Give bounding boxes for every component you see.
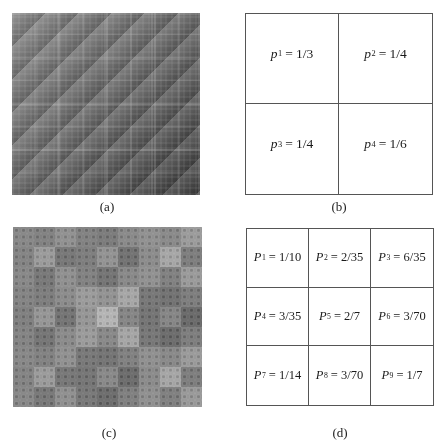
cascade-subcell	[34, 327, 55, 347]
cascade-subcell	[76, 267, 97, 287]
cascade-subcell	[181, 367, 202, 387]
subscript: 5	[327, 312, 331, 321]
subscript: 4	[372, 140, 376, 149]
cascade-subcell	[76, 367, 97, 387]
cascade-subcell	[76, 287, 97, 307]
caption-a: (a)	[92, 199, 122, 215]
caption-d: (d)	[325, 425, 355, 441]
subscript: 3	[386, 253, 390, 262]
equals: =	[379, 46, 387, 62]
quadrant	[12, 104, 106, 195]
grid-cell: P7=1/14	[247, 346, 309, 405]
cascade-subcell	[118, 387, 139, 407]
p-symbol: p	[271, 46, 278, 62]
quadrant	[106, 13, 200, 104]
cascade-image-3x3	[13, 227, 202, 407]
cascade-subcell	[97, 367, 118, 387]
subscript: 7	[262, 371, 266, 380]
cascade-subcell	[76, 307, 97, 327]
cascade-subcell	[181, 347, 202, 367]
probability-value: 1/14	[279, 368, 301, 383]
equals: =	[269, 250, 276, 265]
cascade-subcell	[118, 227, 139, 247]
cascade-subcell	[139, 347, 160, 367]
cascade-subcell	[34, 287, 55, 307]
cascade-subcell	[160, 227, 181, 247]
cascade-subcell	[13, 247, 34, 267]
cascade-subcell	[118, 247, 139, 267]
cascade-subcell	[55, 327, 76, 347]
probability-grid-2x2: p1=1/3 p2=1/4 p3=1/4 p4=1/6	[245, 13, 433, 195]
cascade-subcell	[13, 347, 34, 367]
equals: =	[331, 250, 338, 265]
cascade-subcell	[13, 287, 34, 307]
equals: =	[334, 309, 341, 324]
equals: =	[285, 136, 293, 152]
p-symbol: P	[254, 368, 262, 383]
probability-grid-3x3: P1=1/10 P2=2/35 P3=6/35 P4=3/35 P5=2/7 P…	[246, 228, 434, 406]
cascade-subcell	[160, 347, 181, 367]
equals: =	[393, 309, 400, 324]
quadrant	[106, 104, 200, 195]
cascade-subcell	[34, 307, 55, 327]
grid-cell: p1=1/3	[246, 14, 339, 104]
probability-value: 1/10	[279, 250, 301, 265]
cascade-subcell	[160, 387, 181, 407]
quadrant	[12, 13, 106, 104]
cascade-subcell	[55, 367, 76, 387]
grid-cell: P5=2/7	[309, 288, 371, 347]
cascade-subcell	[55, 287, 76, 307]
cascade-subcell	[97, 327, 118, 347]
cascade-subcell	[76, 227, 97, 247]
equals: =	[331, 368, 338, 383]
cascade-subcell	[13, 267, 34, 287]
cascade-image-2x2	[12, 13, 200, 195]
grid-cell: P1=1/10	[247, 229, 309, 288]
p-symbol: P	[254, 250, 262, 265]
subscript: 2	[372, 49, 376, 58]
p-symbol: P	[381, 368, 389, 383]
probability-value: 3/70	[403, 309, 425, 324]
cascade-subcell	[118, 287, 139, 307]
cascade-subcell	[13, 367, 34, 387]
cascade-subcell	[139, 267, 160, 287]
cascade-subcell	[76, 387, 97, 407]
cascade-subcell	[13, 307, 34, 327]
grid-cell: P4=3/35	[247, 288, 309, 347]
cascade-subcell	[13, 327, 34, 347]
cascade-subcell	[97, 387, 118, 407]
cascade-subcell	[160, 247, 181, 267]
cascade-subcell	[118, 307, 139, 327]
subscript: 9	[390, 371, 394, 380]
cascade-subcell	[160, 267, 181, 287]
grid-cell: p2=1/4	[339, 14, 432, 104]
cascade-subcell	[55, 347, 76, 367]
cascade-subcell	[181, 387, 202, 407]
cascade-subcell	[160, 287, 181, 307]
probability-value: 3/35	[279, 309, 301, 324]
cascade-subcell	[160, 367, 181, 387]
grid-cell: P6=3/70	[371, 288, 433, 347]
cascade-subcell	[118, 347, 139, 367]
subscript: 1	[278, 49, 282, 58]
equals: =	[285, 46, 293, 62]
p-symbol: P	[319, 309, 327, 324]
subscript: 6	[386, 312, 390, 321]
cascade-subcell	[139, 227, 160, 247]
cascade-subcell	[13, 387, 34, 407]
grid-cell: P3=6/35	[371, 229, 433, 288]
cascade-subcell	[34, 267, 55, 287]
cascade-subcell	[55, 267, 76, 287]
subscript: 8	[324, 371, 328, 380]
cascade-subcell	[139, 247, 160, 267]
p-symbol: p	[271, 136, 278, 152]
cascade-subcell	[55, 387, 76, 407]
probability-value: 1/7	[407, 368, 423, 383]
cascade-subcell	[181, 247, 202, 267]
cascade-subcell	[34, 247, 55, 267]
caption-c: (c)	[94, 425, 124, 441]
subscript: 1	[262, 253, 266, 262]
p-symbol: P	[316, 368, 324, 383]
cascade-subcell	[97, 307, 118, 327]
cascade-subcell	[181, 287, 202, 307]
